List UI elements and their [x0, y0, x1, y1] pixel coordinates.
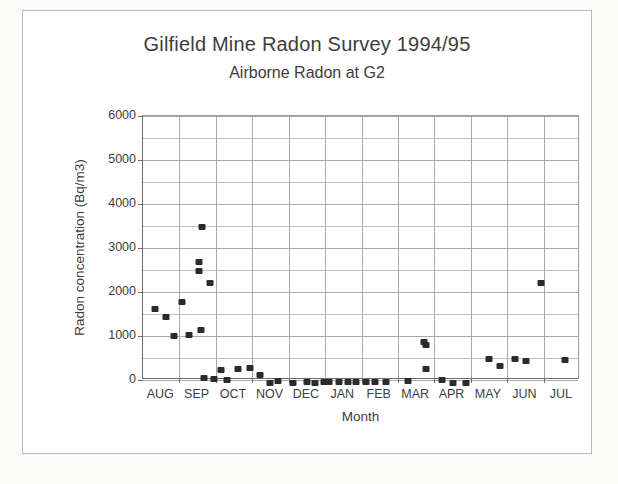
y-tick-mark — [138, 204, 143, 205]
x-gridline — [434, 116, 435, 378]
data-point-marker — [235, 366, 242, 372]
y-gridline-major — [143, 116, 578, 117]
data-point-marker — [162, 314, 169, 320]
y-gridline-major — [143, 292, 578, 293]
x-axis-title: Month — [142, 409, 579, 424]
y-tick-label: 4000 — [76, 196, 136, 210]
data-point-marker — [462, 380, 469, 386]
data-point-marker — [344, 379, 351, 385]
data-point-marker — [485, 356, 492, 362]
y-tick-label: 0 — [76, 372, 136, 386]
y-tick-label: 2000 — [76, 284, 136, 298]
x-gridline — [544, 116, 545, 378]
data-point-marker — [382, 379, 389, 385]
x-gridline — [507, 116, 508, 378]
data-point-marker — [196, 268, 203, 274]
data-point-marker — [561, 357, 568, 363]
data-point-marker — [211, 376, 218, 382]
x-tick-label: JUL — [531, 387, 591, 401]
y-gridline-minor — [143, 182, 578, 183]
x-tick-mark — [398, 378, 399, 383]
data-point-marker — [247, 365, 254, 371]
y-tick-mark — [138, 336, 143, 337]
data-point-marker — [352, 379, 359, 385]
data-point-marker — [218, 367, 225, 373]
data-point-marker — [256, 372, 263, 378]
y-gridline-minor — [143, 314, 578, 315]
x-gridline — [216, 116, 217, 378]
y-tick-label: 5000 — [76, 152, 136, 166]
y-tick-label: 3000 — [76, 240, 136, 254]
data-point-marker — [171, 333, 178, 339]
x-gridline — [398, 116, 399, 378]
data-point-marker — [450, 380, 457, 386]
x-gridline — [325, 116, 326, 378]
data-point-marker — [152, 306, 159, 312]
y-gridline-minor — [143, 138, 578, 139]
data-point-marker — [290, 380, 297, 386]
data-point-marker — [198, 327, 205, 333]
y-tick-mark — [138, 248, 143, 249]
data-point-marker — [335, 379, 342, 385]
data-point-marker — [372, 379, 379, 385]
scanned-page: Gilfield Mine Radon Survey 1994/95 Airbo… — [0, 0, 618, 484]
y-tick-mark — [138, 292, 143, 293]
data-point-marker — [198, 224, 205, 230]
data-point-marker — [405, 378, 412, 384]
y-tick-label: 1000 — [76, 328, 136, 342]
chart-title: Gilfield Mine Radon Survey 1994/95 — [23, 33, 591, 56]
x-tick-mark — [179, 378, 180, 383]
data-point-marker — [185, 332, 192, 338]
x-gridline — [252, 116, 253, 378]
y-gridline-major — [143, 160, 578, 161]
data-point-marker — [201, 375, 208, 381]
data-point-marker — [496, 363, 503, 369]
plot-area — [142, 115, 579, 379]
y-tick-label: 6000 — [76, 108, 136, 122]
data-point-marker — [537, 280, 544, 286]
y-gridline-minor — [143, 226, 578, 227]
x-tick-mark — [434, 378, 435, 383]
data-point-marker — [207, 280, 214, 286]
data-point-marker — [274, 378, 281, 384]
data-point-marker — [523, 358, 530, 364]
data-point-marker — [178, 299, 185, 305]
data-point-marker — [325, 379, 332, 385]
x-tick-mark — [507, 378, 508, 383]
data-point-marker — [303, 379, 310, 385]
x-gridline — [362, 116, 363, 378]
y-tick-mark — [138, 160, 143, 161]
y-tick-mark — [138, 116, 143, 117]
x-tick-mark — [471, 378, 472, 383]
data-point-marker — [512, 356, 519, 362]
data-point-marker — [223, 377, 230, 383]
y-gridline-major — [143, 248, 578, 249]
y-tick-mark — [138, 380, 143, 381]
x-tick-mark — [252, 378, 253, 383]
data-point-marker — [438, 377, 445, 383]
data-point-marker — [196, 259, 203, 265]
data-point-marker — [311, 380, 318, 386]
x-gridline — [471, 116, 472, 378]
y-gridline-minor — [143, 270, 578, 271]
chart-subtitle: Airborne Radon at G2 — [23, 64, 591, 82]
x-gridline — [289, 116, 290, 378]
x-gridline — [179, 116, 180, 378]
data-point-marker — [266, 380, 273, 386]
figure-frame: Gilfield Mine Radon Survey 1994/95 Airbo… — [22, 10, 592, 454]
data-point-marker — [362, 379, 369, 385]
data-point-marker — [422, 366, 429, 372]
y-gridline-major — [143, 336, 578, 337]
data-point-marker — [423, 342, 430, 348]
y-gridline-major — [143, 204, 578, 205]
y-gridline-major — [143, 380, 578, 381]
x-tick-mark — [544, 378, 545, 383]
